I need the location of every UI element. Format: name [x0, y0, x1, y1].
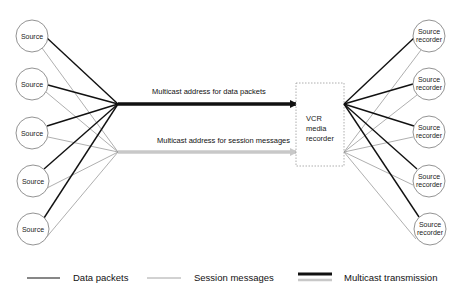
- right-data-lines: [344, 38, 419, 217]
- source-recorder-node: Source recorder: [413, 165, 445, 197]
- svg-text:recorder: recorder: [416, 132, 443, 139]
- svg-text:Source: Source: [418, 28, 440, 35]
- source-recorder-node: Source recorder: [413, 116, 445, 148]
- legend: Data packets Session messages Multicast …: [27, 272, 437, 283]
- vcr-label-line2: media: [306, 124, 327, 133]
- svg-text:Source: Source: [418, 124, 440, 131]
- source-node: Source: [16, 117, 48, 149]
- vcr-label-line3: recorder: [306, 134, 334, 143]
- source-recorder-node: Source recorder: [413, 20, 445, 52]
- source-node: Source: [16, 20, 48, 52]
- source-node: Source: [17, 213, 49, 245]
- svg-text:recorder: recorder: [417, 229, 444, 236]
- svg-text:Source: Source: [22, 226, 44, 233]
- vcr-label-line1: VCR: [306, 114, 322, 123]
- svg-text:Source: Source: [418, 76, 440, 83]
- source-recorder-node: Source recorder: [413, 68, 445, 100]
- svg-text:Source: Source: [21, 130, 43, 137]
- session-arrow-label: Multicast address for session messages: [157, 136, 290, 145]
- source-nodes: Source Source Source Source Source: [16, 20, 49, 245]
- source-node: Source: [17, 165, 49, 197]
- left-session-lines: [42, 48, 118, 239]
- legend-session-messages: Session messages: [194, 272, 274, 283]
- svg-text:recorder: recorder: [416, 84, 443, 91]
- source-recorder-node: Source recorder: [414, 213, 446, 245]
- svg-text:Source: Source: [418, 173, 440, 180]
- source-node: Source: [16, 68, 48, 100]
- svg-text:Source: Source: [22, 178, 44, 185]
- svg-text:Source: Source: [21, 81, 43, 88]
- svg-text:Source: Source: [419, 221, 441, 228]
- vcr-media-recorder-box: VCR media recorder: [296, 83, 344, 166]
- svg-text:recorder: recorder: [416, 181, 443, 188]
- right-session-lines: [344, 50, 421, 239]
- svg-text:recorder: recorder: [416, 36, 443, 43]
- legend-data-packets: Data packets: [73, 272, 129, 283]
- svg-text:Source: Source: [21, 33, 43, 40]
- multicast-diagram: Multicast address for data packets Multi…: [0, 0, 462, 300]
- left-data-lines: [44, 38, 118, 218]
- data-arrow-label: Multicast address for data packets: [152, 87, 266, 96]
- legend-multicast-transmission: Multicast transmission: [344, 272, 437, 283]
